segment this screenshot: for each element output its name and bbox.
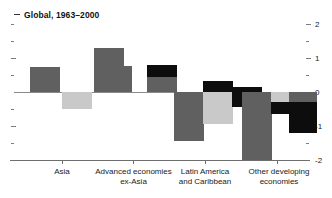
x-tick-advanced [133, 160, 134, 164]
category-label-latam-line1: Latin America [181, 167, 229, 176]
x-tick-asia [62, 160, 63, 164]
bar-other-series-3[interactable] [289, 92, 317, 102]
bar-advanced-series-4[interactable] [147, 65, 177, 77]
bar-other-series-4-left[interactable] [271, 102, 289, 114]
chart-title-text: Global, 1963–2000 [24, 10, 99, 20]
bar-group-other-developing-economies [242, 24, 316, 160]
bar-latam-series-3-overlap[interactable] [203, 81, 233, 92]
bar-latam-series-1[interactable] [174, 92, 204, 141]
x-tick-other [277, 160, 278, 164]
bar-other-series-4-right[interactable] [289, 102, 317, 133]
category-label-other-developing: Other developing economies [237, 167, 321, 187]
bar-advanced-series-3[interactable] [147, 77, 177, 92]
category-label-asia-line1: Asia [54, 167, 70, 176]
x-axis-line [10, 160, 310, 161]
y-axis-label-neg2: -2 [315, 156, 322, 165]
category-label-advanced-line1: Advanced economies [95, 167, 172, 176]
bar-asia-series-2[interactable] [62, 92, 92, 109]
bar-advanced-series-1[interactable] [102, 66, 132, 93]
dash-marker-icon [14, 14, 20, 15]
category-label-other-line2: economies [237, 177, 321, 187]
x-tick-latam [205, 160, 206, 164]
category-label-latam-line2: and Caribbean [165, 177, 245, 187]
bar-latam-series-2[interactable] [203, 92, 233, 124]
chart-title: Global, 1963–2000 [14, 10, 99, 20]
category-label-latin-america: Latin America and Caribbean [165, 167, 245, 187]
chart-container: Global, 1963–2000 2 1 0 -1 -2 [0, 0, 332, 198]
bar-other-series-1[interactable] [242, 92, 272, 160]
plot-area [14, 24, 306, 160]
category-label-other-line1: Other developing [249, 167, 310, 176]
bar-asia-series-1[interactable] [30, 67, 60, 93]
